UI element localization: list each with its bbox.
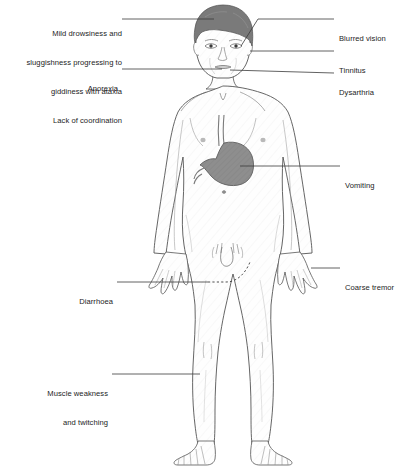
label-anorexia: Anorexia: [18, 65, 118, 113]
label-diarrhoea: Diarrhoea: [13, 278, 113, 326]
label-coarse-tremor-line-1: Coarse tremor: [345, 283, 415, 293]
diagram-page: Mild drowsiness and sluggishness progres…: [0, 0, 416, 472]
label-muscle-weakness-line-2: and twitching: [8, 418, 108, 428]
mouth: [215, 66, 231, 69]
label-diarrhoea-line-1: Diarrhoea: [13, 297, 113, 307]
foot-left: [174, 441, 215, 465]
hand-left: [149, 252, 188, 294]
leader-dysarthria: [230, 70, 334, 73]
label-vomiting: Vomiting: [345, 162, 415, 210]
label-drowsiness-line-1: Mild drowsiness and: [8, 29, 122, 39]
label-blurred-vision-line-1: Blurred vision: [339, 34, 414, 44]
label-coarse-tremor: Coarse tremor: [345, 264, 415, 312]
label-drowsiness-line-4: Lack of coordination: [8, 116, 122, 126]
label-anorexia-line-1: Anorexia: [18, 84, 118, 94]
navel: [222, 191, 226, 194]
nipple-left: [200, 138, 205, 142]
label-vomiting-line-1: Vomiting: [345, 181, 415, 191]
foot-right: [251, 441, 292, 465]
nipple-right: [260, 138, 265, 142]
label-dysarthria: Dysarthria: [339, 69, 414, 117]
body-figure: [149, 5, 317, 465]
hand-right: [278, 252, 317, 294]
leader-blurred-vision: [241, 19, 334, 46]
label-muscle-weakness: Muscle weakness and twitching: [8, 370, 108, 447]
label-muscle-weakness-line-1: Muscle weakness: [8, 389, 108, 399]
label-dysarthria-line-1: Dysarthria: [339, 88, 414, 98]
